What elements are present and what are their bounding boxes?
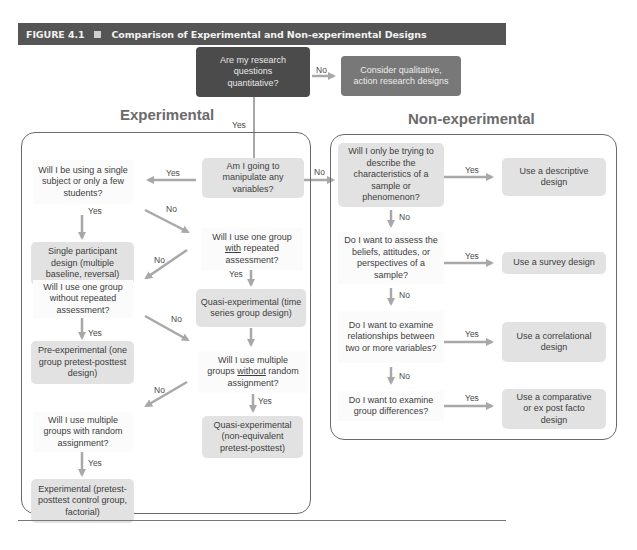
comparative-outcome-box: Use a comparative or ex post facto desig…	[502, 389, 606, 429]
label-yes-comparative: Yes	[465, 393, 479, 403]
descriptive-outcome-text: Use a descriptive design	[514, 166, 594, 189]
multiple-random-question-text: Will I use multiple groups with random a…	[40, 415, 126, 450]
survey-outcome-box: Use a survey design	[502, 252, 606, 274]
label-no-single-diagonal: No	[166, 204, 177, 214]
label-yes-correlational: Yes	[465, 329, 479, 339]
label-yes-random-down: Yes	[88, 458, 102, 468]
start-question-box: Are my research questions quantitative?	[196, 47, 310, 97]
label-no-one-group-diagonal: No	[154, 255, 165, 265]
label-no-qualitative: No	[316, 65, 327, 75]
label-yes-descriptive: Yes	[465, 165, 479, 175]
multiple-without-underlined: without	[237, 366, 266, 376]
one-group-with-underlined: with	[225, 243, 241, 253]
beliefs-question-text: Do I want to assess the beliefs, attitud…	[341, 235, 441, 281]
label-no-multiple-diagonal: No	[154, 385, 165, 395]
experimental-outcome-text: Experimental (pretest-posttest control g…	[35, 484, 131, 519]
nonequivalent-outcome-text: Quasi-experimental (non-equivalent prete…	[210, 420, 296, 455]
beliefs-question-box: Do I want to assess the beliefs, attitud…	[338, 232, 444, 284]
label-no-3: No	[399, 371, 410, 381]
manipulate-question-box: Am I going to manipulate any variables?	[202, 158, 304, 198]
qualitative-outcome-box: Consider qualitative, action research de…	[341, 56, 461, 96]
label-no-2: No	[399, 290, 410, 300]
time-series-outcome-text: Quasi-experimental (time series group de…	[199, 297, 303, 320]
differences-question-text: Do I want to examine group differences?	[341, 395, 441, 418]
start-question-text: Are my research questions quantitative?	[208, 55, 298, 90]
label-yes-survey: Yes	[465, 251, 479, 261]
manipulate-question-text: Am I going to manipulate any variables?	[213, 161, 293, 196]
survey-outcome-text: Use a survey design	[513, 257, 595, 269]
label-no-nonexperimental: No	[314, 167, 325, 177]
multiple-without-question-text: Will I use multiple groups without rando…	[203, 355, 303, 390]
one-group-with-question-box: Will I use one group with repeated asses…	[201, 228, 303, 270]
describe-question-box: Will I only be trying to describe the ch…	[338, 143, 444, 207]
one-group-without-question-box: Will I use one group without repeated as…	[33, 280, 133, 318]
multiple-random-question-box: Will I use multiple groups with random a…	[33, 412, 133, 452]
relationships-question-box: Do I want to examine relationships betwe…	[338, 311, 444, 363]
single-subject-question-box: Will I be using a single subject or only…	[33, 160, 133, 204]
one-group-without-question-text: Will I use one group without repeated as…	[38, 282, 128, 317]
single-participant-outcome-text: Single participant design (multiple base…	[37, 246, 129, 281]
qualitative-outcome-text: Consider qualitative, action research de…	[349, 65, 454, 88]
label-yes-single-down: Yes	[88, 206, 102, 216]
single-subject-question-text: Will I be using a single subject or only…	[35, 165, 131, 200]
label-yes-start: Yes	[232, 120, 246, 130]
experimental-outcome-box: Experimental (pretest-posttest control g…	[31, 479, 134, 523]
bottom-rule	[18, 520, 506, 521]
nonexperimental-title: Non-experimental	[408, 110, 535, 127]
label-yes-one-group-down: Yes	[229, 269, 243, 279]
one-group-with-pre: Will I use one group	[212, 232, 292, 242]
experimental-title: Experimental	[120, 106, 214, 123]
nonequivalent-outcome-box: Quasi-experimental (non-equivalent prete…	[202, 416, 303, 458]
relationships-question-text: Do I want to examine relationships betwe…	[342, 320, 440, 355]
label-yes-one-group-without-down: Yes	[88, 328, 102, 338]
pre-experimental-outcome-box: Pre-experimental (one group pretest-post…	[31, 341, 134, 384]
comparative-outcome-text: Use a comparative or ex post facto desig…	[514, 392, 594, 427]
label-yes-multiple-without-down: Yes	[258, 396, 272, 406]
correlational-outcome-box: Use a correlational design	[502, 322, 606, 362]
multiple-without-question-box: Will I use multiple groups without rando…	[198, 351, 308, 393]
pre-experimental-outcome-text: Pre-experimental (one group pretest-post…	[38, 345, 128, 380]
single-participant-outcome-box: Single participant design (multiple base…	[31, 242, 134, 285]
label-yes-single: Yes	[166, 168, 180, 178]
one-group-with-question-text: Will I use one group with repeated asses…	[211, 232, 293, 267]
label-no-without-diagonal: No	[171, 314, 182, 324]
differences-question-box: Do I want to examine group differences?	[338, 391, 444, 421]
label-no-1: No	[399, 212, 410, 222]
descriptive-outcome-box: Use a descriptive design	[502, 158, 606, 196]
describe-question-text: Will I only be trying to describe the ch…	[344, 146, 438, 204]
correlational-outcome-text: Use a correlational design	[512, 331, 596, 354]
time-series-outcome-box: Quasi-experimental (time series group de…	[196, 289, 306, 327]
